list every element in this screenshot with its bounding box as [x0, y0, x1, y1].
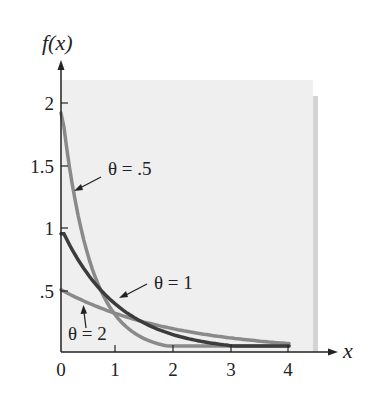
x-tick-label: 4 [283, 359, 293, 380]
y-tick-label: .5 [40, 281, 54, 302]
x-tick-label: 2 [168, 359, 178, 380]
annotation-theta-1: θ = 1 [154, 272, 193, 293]
x-axis-arrow-icon [328, 349, 338, 356]
panel-shadow [313, 96, 318, 352]
x-axis-label: x [342, 338, 353, 363]
plot-panel [61, 80, 313, 352]
exponential-density-chart: 2 1.5 1 .5 0 1 2 3 4 f(x) x θ = .5 θ = 1… [0, 0, 373, 398]
x-tick-label: 0 [56, 359, 66, 380]
y-axis-label: f(x) [42, 30, 73, 55]
y-tick-label: 1.5 [30, 156, 54, 177]
annotation-theta-2: θ = 2 [68, 323, 107, 344]
x-tick-label: 3 [226, 359, 236, 380]
annotation-theta-0.5: θ = .5 [108, 158, 152, 179]
y-axis-arrow-icon [58, 60, 65, 70]
y-tick-label: 1 [45, 218, 55, 239]
y-tick-label: 2 [45, 93, 55, 114]
x-tick-label: 1 [110, 359, 120, 380]
